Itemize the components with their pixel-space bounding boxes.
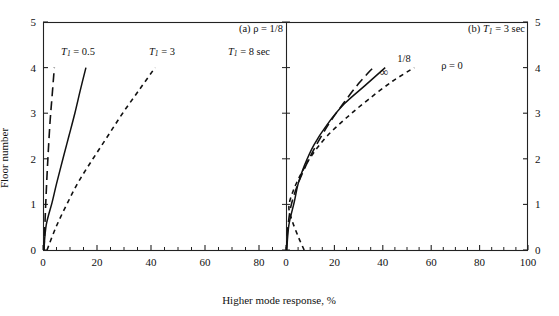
x-tick-label: 60: [200, 256, 211, 268]
x-tick-label: 20: [329, 256, 340, 268]
x-tick-label: 100: [520, 256, 537, 268]
curve-infinity: [286, 68, 373, 250]
curve-label-rho-zero: ρ = 0: [441, 60, 463, 71]
y-tick-label: 2: [535, 153, 541, 165]
curve-label-t1-8: T1 = 8 sec: [228, 46, 270, 59]
y-tick-label: 0: [31, 244, 37, 256]
x-tick-label: 0: [40, 256, 46, 268]
plot-frame: [44, 23, 528, 251]
x-tick-label: 0: [283, 256, 289, 268]
x-tick-label: 80: [474, 256, 485, 268]
y-tick-label: 3: [31, 107, 37, 119]
panel-a-title: (a) ρ = 1/8: [239, 23, 283, 34]
curve-label-t1-3: T1 = 3: [149, 46, 175, 59]
x-tick-label: 40: [377, 256, 388, 268]
x-tick-label: 60: [426, 256, 437, 268]
y-tick-label: 4: [535, 62, 541, 74]
y-tick-label: 1: [535, 198, 541, 210]
panel-b-title: (b) T1 = 3 sec: [468, 23, 525, 36]
x-tick-label: 40: [146, 256, 157, 268]
curve-t1-3: [44, 68, 86, 250]
y-tick-label: 5: [535, 16, 541, 28]
x-tick-label: 80: [254, 256, 265, 268]
y-tick-label: 0: [535, 244, 541, 256]
curve-1-8: [287, 68, 385, 250]
y-tick-label: 1: [31, 198, 37, 210]
curve-label-t1-05: T1 = 0.5: [61, 46, 95, 59]
figure-container: Floor number Higher mode response, % (a)…: [0, 0, 559, 316]
curve-label-infinity: ∞: [380, 65, 389, 80]
y-axis-title: Floor number: [0, 128, 10, 188]
y-tick-label: 5: [31, 16, 37, 28]
y-tick-label: 3: [535, 107, 541, 119]
y-tick-label: 4: [31, 62, 37, 74]
x-tick-label: 20: [92, 256, 103, 268]
x-axis-title: Higher mode response, %: [222, 294, 336, 306]
curve-label-one-eighth: 1/8: [397, 53, 410, 64]
y-tick-label: 2: [31, 153, 37, 165]
